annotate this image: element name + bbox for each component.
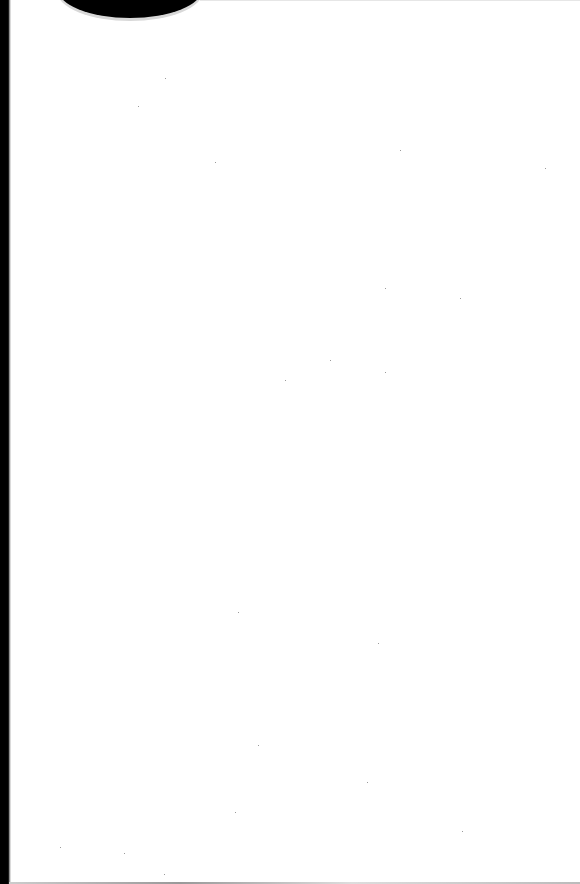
scan-speck [60, 847, 61, 848]
scan-speck [235, 812, 236, 813]
scan-speck [400, 150, 401, 151]
scan-speck [238, 612, 239, 613]
scan-speck [165, 78, 166, 79]
scan-speck [460, 298, 461, 299]
blank-page [9, 0, 580, 884]
scan-speck [385, 288, 386, 289]
page-top-edge [200, 0, 580, 1]
scan-speck [378, 643, 379, 644]
scan-speck [545, 168, 546, 169]
scan-speck [462, 831, 463, 832]
scan-speck [138, 106, 139, 107]
scan-speck [367, 782, 368, 783]
scan-speck [330, 360, 331, 361]
scan-speck [164, 874, 165, 875]
scan-speck [285, 380, 286, 381]
scan-speck [385, 372, 386, 373]
scan-edge-left [0, 0, 9, 884]
scan-speck [258, 745, 259, 746]
scan-speck [124, 853, 125, 854]
scan-speck [215, 162, 216, 163]
